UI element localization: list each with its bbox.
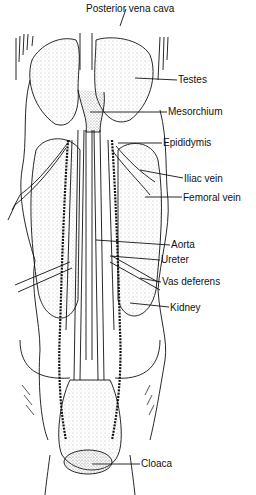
label-femoral-vein: Femoral vein xyxy=(183,192,241,204)
label-posterior-vena-cava: Posterior vena cava xyxy=(86,3,174,15)
label-kidney: Kidney xyxy=(170,302,201,314)
urogenital-illustration xyxy=(0,0,256,495)
label-cloaca: Cloaca xyxy=(141,458,172,470)
label-iliac-vein: Iliac vein xyxy=(184,173,223,185)
label-testes: Testes xyxy=(178,74,207,86)
label-mesorchium: Mesorchium xyxy=(168,106,222,118)
label-epididymis: Epididymis xyxy=(163,137,211,149)
label-ureter: Ureter xyxy=(161,254,189,266)
label-aorta: Aorta xyxy=(171,239,195,251)
label-vas-deferens: Vas deferens xyxy=(162,276,220,288)
